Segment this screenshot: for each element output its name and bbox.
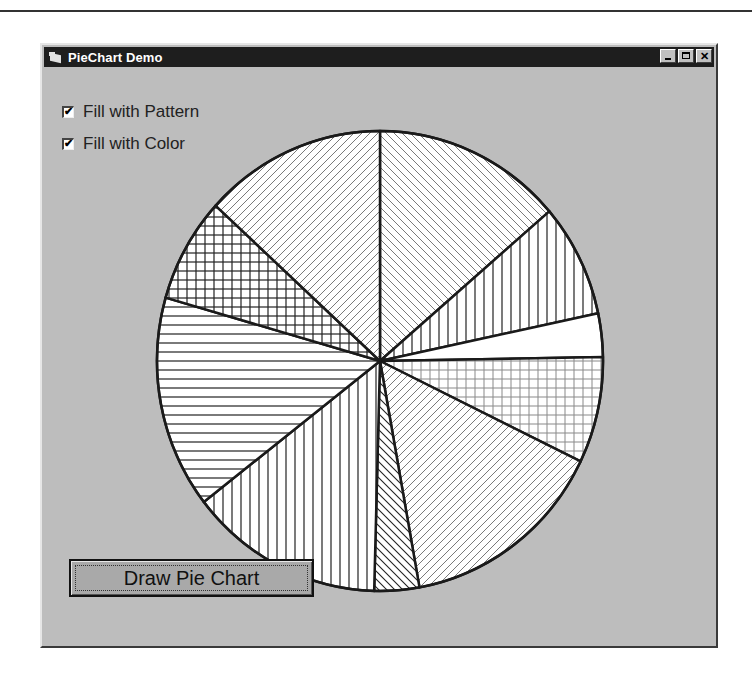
fill-color-checkbox[interactable]: ✔ Fill with Color bbox=[62, 134, 185, 154]
pie-slices bbox=[157, 131, 603, 591]
draw-pie-chart-button[interactable]: Draw Pie Chart bbox=[69, 559, 314, 597]
checkmark-icon: ✔ bbox=[64, 104, 73, 118]
piechart-window: PieChart Demo ✕ bbox=[40, 43, 718, 648]
page-divider bbox=[0, 10, 752, 12]
checkbox-box[interactable]: ✔ bbox=[62, 138, 74, 150]
checkmark-icon: ✔ bbox=[64, 136, 73, 150]
fill-pattern-label: Fill with Pattern bbox=[83, 102, 199, 122]
fill-pattern-checkbox[interactable]: ✔ Fill with Pattern bbox=[62, 102, 199, 122]
focus-rect bbox=[75, 565, 308, 591]
checkbox-box[interactable]: ✔ bbox=[62, 106, 74, 118]
fill-color-label: Fill with Color bbox=[83, 134, 185, 154]
